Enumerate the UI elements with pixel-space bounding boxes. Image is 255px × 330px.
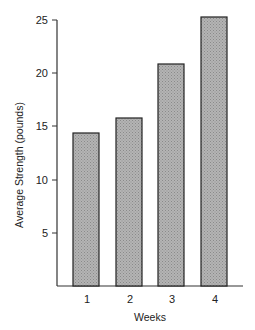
x-tick-label: 4	[212, 293, 218, 305]
y-axis-label: Average Strength (pounds)	[13, 102, 25, 228]
x-tick-label: 1	[84, 293, 90, 305]
y-tick-label: 5	[42, 227, 48, 239]
y-ticks: 5 10 15 20 25	[36, 14, 57, 239]
x-ticks: 1 2 3 4	[84, 293, 218, 305]
y-tick-label: 10	[36, 174, 48, 186]
bars	[73, 17, 227, 286]
y-tick-label: 15	[36, 120, 48, 132]
bar-week-2	[116, 118, 142, 286]
y-tick-label: 25	[36, 14, 48, 26]
bar-week-1	[73, 133, 99, 286]
y-tick-label: 20	[36, 67, 48, 79]
x-tick-label: 3	[169, 293, 175, 305]
x-tick-label: 2	[127, 293, 133, 305]
bar-week-3	[158, 64, 184, 286]
x-axis-label: Weeks	[134, 311, 166, 323]
bar-chart: 5 10 15 20 25 1 2 3 4 Weeks Average Stre…	[0, 0, 255, 330]
bar-week-4	[201, 17, 227, 286]
